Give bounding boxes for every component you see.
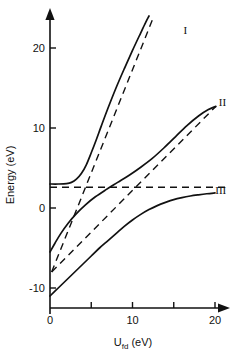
y-tick-label-0: 0 — [39, 202, 45, 214]
curve-branch-ii — [50, 106, 216, 252]
x-ticks-group — [91, 302, 215, 308]
curve-label-ii: II — [219, 96, 227, 108]
asymptotes-group — [50, 16, 226, 272]
y-tick-label-10: 10 — [33, 122, 45, 134]
steep-diabatic-line — [52, 16, 154, 272]
energy-level-chart: Energy (eV) 20 10 0 -10 — [0, 0, 238, 362]
curves-group — [50, 16, 216, 296]
y-tick-label-20: 20 — [33, 42, 45, 54]
x-axis-arrowhead — [218, 303, 230, 312]
curve-branch-i — [50, 16, 149, 184]
x-tick-label-20: 20 — [209, 314, 221, 326]
y-tick-labels-group: 20 10 0 -10 — [29, 42, 45, 294]
curve-label-iii: III — [215, 184, 226, 196]
axes-group — [45, 8, 230, 314]
y-axis-arrowhead — [45, 8, 54, 20]
x-axis-title: Ufd (eV) — [114, 336, 152, 351]
x-axis-title-base: U — [114, 336, 122, 348]
x-tick-label-0: 0 — [47, 314, 53, 326]
x-axis-title-subscript: fd — [122, 342, 129, 351]
y-tick-label-minus10: -10 — [29, 282, 45, 294]
x-tick-label-10: 10 — [126, 314, 138, 326]
shallow-diabatic-line — [52, 106, 216, 272]
figure-container: Energy (eV) 20 10 0 -10 — [0, 0, 238, 362]
curve-labels-group: I II III — [183, 24, 226, 195]
x-tick-labels-group: 0 10 20 — [47, 314, 221, 326]
curve-label-i: I — [183, 24, 187, 36]
curve-branch-iii — [50, 193, 215, 296]
y-axis-title: Energy (eV) — [4, 146, 16, 205]
x-axis-title-unit: (eV) — [128, 336, 152, 348]
